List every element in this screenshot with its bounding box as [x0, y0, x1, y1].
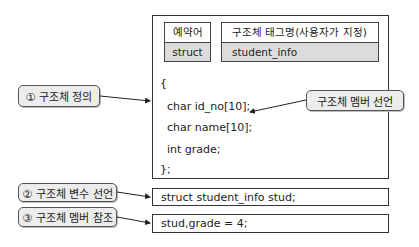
arrow-definition-icon [100, 96, 150, 101]
arrow-reference-icon [117, 217, 150, 223]
arrow-member-icon [250, 100, 306, 112]
arrow-variable-icon [117, 192, 150, 197]
connector-arrows [0, 0, 419, 247]
